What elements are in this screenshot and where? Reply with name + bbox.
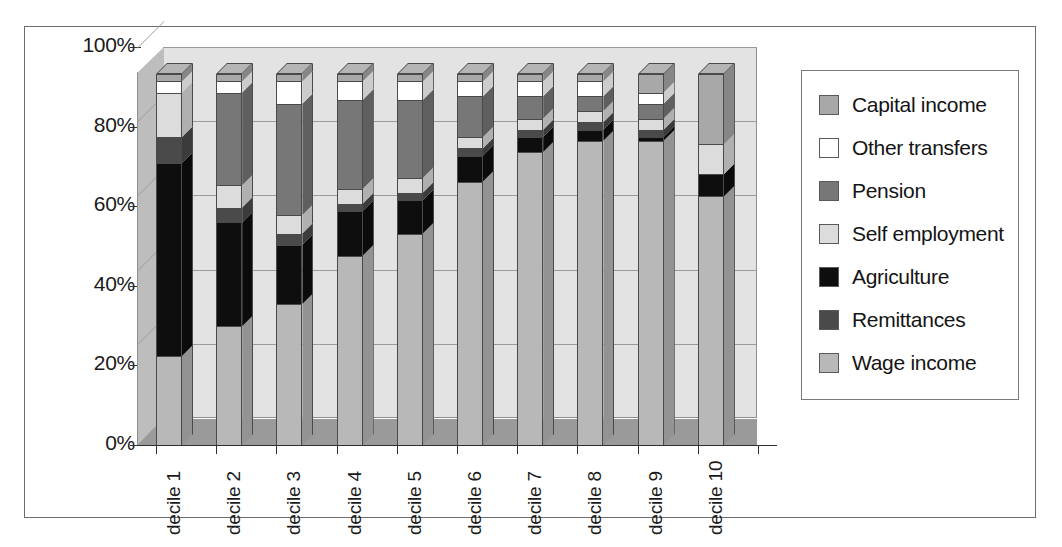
bar-segment[interactable] (216, 208, 242, 223)
bar-segment-divider (337, 211, 363, 212)
bar-segment[interactable] (276, 74, 302, 81)
bar-segment-divider (397, 200, 423, 201)
bar-segment-divider (517, 96, 543, 97)
bar-decile-4[interactable] (337, 47, 363, 445)
legend-label: Capital income (852, 93, 987, 117)
bar-segment-divider (216, 208, 242, 209)
bar-segment[interactable] (577, 122, 603, 129)
bar-segment[interactable] (156, 163, 182, 356)
bar-segment[interactable] (337, 204, 363, 211)
bar-segment[interactable] (638, 141, 664, 445)
legend-item-other-transfers[interactable]: Other transfers (819, 136, 988, 160)
bar-segment[interactable] (638, 104, 664, 119)
bar-segment[interactable] (457, 137, 483, 148)
bar-segment[interactable] (698, 196, 724, 445)
bar-segment[interactable] (457, 96, 483, 137)
bar-segment[interactable] (577, 74, 603, 81)
bar-decile-6[interactable] (457, 47, 483, 445)
bar-segment[interactable] (397, 100, 423, 178)
legend-item-pension[interactable]: Pension (819, 179, 926, 203)
bar-segment[interactable] (577, 96, 603, 111)
bar-segment[interactable] (156, 356, 182, 445)
bar-segment[interactable] (276, 304, 302, 445)
bar-segment[interactable] (337, 74, 363, 81)
bar-segment[interactable] (337, 81, 363, 100)
bar-segment[interactable] (216, 222, 242, 326)
bar-segment[interactable] (216, 326, 242, 445)
bar-decile-8[interactable] (577, 47, 603, 445)
legend-label: Other transfers (852, 136, 988, 160)
bar-segment[interactable] (276, 245, 302, 304)
bar-segment[interactable] (698, 174, 724, 196)
bar-segment[interactable] (457, 156, 483, 182)
bar-segment[interactable] (698, 144, 724, 174)
bar-segment[interactable] (638, 130, 664, 137)
bar-segment[interactable] (397, 74, 423, 81)
bar-segment[interactable] (216, 185, 242, 207)
bar-decile-5[interactable] (397, 47, 423, 445)
bar-segment[interactable] (577, 141, 603, 445)
bar-segment[interactable] (517, 152, 543, 445)
x-axis-label: decile 10 (705, 461, 727, 535)
bar-segment[interactable] (397, 178, 423, 193)
bar-segment[interactable] (276, 234, 302, 245)
bar-segment[interactable] (276, 104, 302, 215)
bar-segment[interactable] (577, 130, 603, 141)
bar-segment[interactable] (216, 74, 242, 81)
bar-segment[interactable] (517, 137, 543, 152)
bar-segment[interactable] (276, 215, 302, 234)
bar-segment[interactable] (156, 74, 182, 81)
bar-segment[interactable] (577, 111, 603, 122)
bar-segment[interactable] (517, 81, 543, 96)
bar-segment[interactable] (638, 119, 664, 130)
bar-segment[interactable] (276, 81, 302, 103)
bar-decile-7[interactable] (517, 47, 543, 445)
bar-segment[interactable] (337, 211, 363, 256)
bar-segment[interactable] (698, 74, 724, 144)
bar-segment[interactable] (457, 148, 483, 155)
bar-segment[interactable] (517, 74, 543, 81)
bar-segment[interactable] (517, 119, 543, 130)
bar-segment[interactable] (337, 100, 363, 189)
bar-segment[interactable] (457, 81, 483, 96)
bar-decile-3[interactable] (276, 47, 302, 445)
y-axis: 0%20%40%60%80%100% (51, 27, 135, 519)
bar-decile-1[interactable] (156, 47, 182, 445)
legend-item-self-employment[interactable]: Self employment (819, 222, 1004, 246)
legend-item-capital-income[interactable]: Capital income (819, 93, 987, 117)
bar-segment[interactable] (397, 200, 423, 233)
x-axis-label: decile 6 (464, 471, 486, 535)
bar-segment[interactable] (216, 93, 242, 186)
legend-item-wage-income[interactable]: Wage income (819, 351, 976, 375)
bar-segment[interactable] (638, 93, 664, 104)
bar-segment-divider (698, 144, 724, 145)
bar-segment[interactable] (638, 74, 664, 93)
bar-segment[interactable] (397, 81, 423, 100)
bar-decile-2[interactable] (216, 47, 242, 445)
bar-segment[interactable] (457, 74, 483, 81)
bar-segment-divider (216, 93, 242, 94)
bar-segment[interactable] (577, 81, 603, 96)
bar-decile-9[interactable] (638, 47, 664, 445)
bar-segment[interactable] (156, 93, 182, 138)
bar-segment[interactable] (337, 256, 363, 445)
bar-segment[interactable] (517, 96, 543, 118)
bar-segment[interactable] (457, 182, 483, 445)
y-axis-tick-label: 60% (61, 193, 135, 214)
x-axis-tick-mark (457, 445, 458, 454)
bar-segment-divider (337, 256, 363, 257)
legend-item-agriculture[interactable]: Agriculture (819, 265, 949, 289)
bar-segment-divider (457, 182, 483, 183)
bar-segment[interactable] (517, 130, 543, 137)
bar-segment[interactable] (397, 234, 423, 445)
bar-segment[interactable] (216, 81, 242, 92)
bar-segment[interactable] (337, 189, 363, 204)
bar-decile-10[interactable] (698, 47, 724, 445)
bar-segment[interactable] (156, 137, 182, 163)
bar-segment-divider (638, 137, 664, 138)
bar-segment[interactable] (156, 81, 182, 92)
legend-item-remittances[interactable]: Remittances (819, 308, 965, 332)
bar-segment-divider (638, 130, 664, 131)
x-axis-label: decile 4 (344, 471, 366, 535)
bar-segment[interactable] (397, 193, 423, 200)
